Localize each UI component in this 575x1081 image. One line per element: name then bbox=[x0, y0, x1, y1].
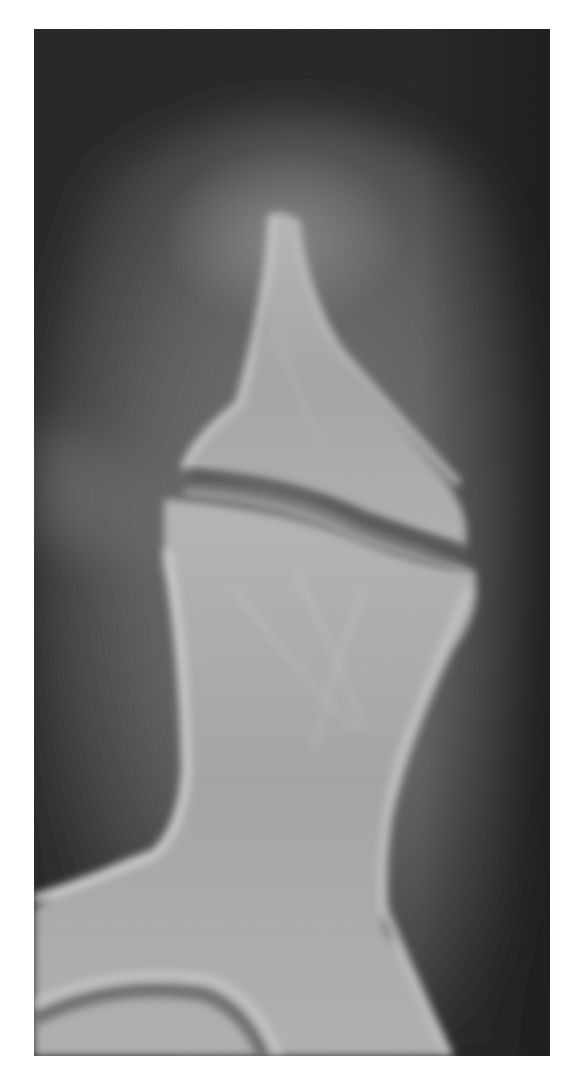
xray-image bbox=[34, 29, 550, 1056]
xray-plate bbox=[34, 29, 550, 1056]
